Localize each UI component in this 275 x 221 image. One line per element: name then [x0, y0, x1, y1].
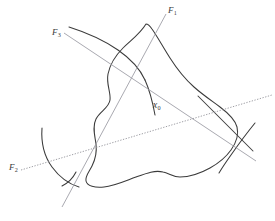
- diagram-svg: [0, 0, 275, 221]
- label-f1-base: F: [168, 5, 174, 15]
- arc-lower-left-curve: [42, 128, 79, 187]
- label-f3-sub: 3: [58, 31, 61, 38]
- label-f2-base: F: [9, 162, 15, 172]
- figure-canvas: F1 F3 F2 x0: [0, 0, 275, 221]
- arc-upper-left-curve: [69, 27, 145, 80]
- label-f1: F1: [168, 6, 177, 15]
- line-F3: [64, 33, 256, 161]
- label-f2-sub: 2: [15, 166, 18, 173]
- arc-right-upper-curve: [198, 96, 253, 151]
- label-x0-sub: 0: [158, 104, 161, 111]
- label-x0-base: x: [153, 100, 157, 110]
- region-boundary-curve: [86, 24, 238, 187]
- label-f3-base: F: [52, 27, 58, 37]
- label-f1-sub: 1: [174, 9, 177, 16]
- line-F1: [62, 14, 166, 207]
- label-f2: F2: [9, 163, 18, 172]
- label-x0: x0: [153, 101, 160, 111]
- label-f3: F3: [52, 28, 61, 37]
